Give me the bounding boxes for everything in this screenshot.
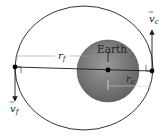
earth-label: Earth xyxy=(97,43,127,55)
far-point-dot xyxy=(13,65,18,70)
close-point-dot xyxy=(150,69,155,74)
v-far-label: vf xyxy=(10,103,20,116)
r-far-label: rf xyxy=(58,50,67,63)
earth-center-dot xyxy=(106,68,111,73)
v-close-label: vc xyxy=(149,13,159,26)
orbit-diagram: rf rc Earth → vc → vf xyxy=(0,0,164,137)
